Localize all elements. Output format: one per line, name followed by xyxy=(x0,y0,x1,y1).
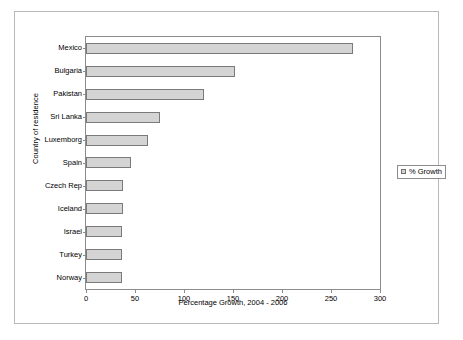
y-axis-tick-label: Sri Lanka xyxy=(50,113,82,121)
bar xyxy=(86,135,148,146)
chart-legend: % Growth xyxy=(397,165,446,179)
y-axis-tick-label: Mexico xyxy=(58,44,82,52)
plot-area: MexicoBulgariaPakistanSri LankaLuxemborg… xyxy=(85,36,381,290)
x-axis-tick xyxy=(282,289,283,293)
y-axis-tick xyxy=(83,140,86,141)
y-axis-tick-label: Iceland xyxy=(58,205,82,213)
x-axis-tick xyxy=(135,289,136,293)
y-axis-tick xyxy=(83,71,86,72)
y-axis-tick-label: Turkey xyxy=(59,251,82,259)
bar-row: Iceland xyxy=(86,197,380,220)
x-axis-tick xyxy=(86,289,87,293)
bar xyxy=(86,249,122,260)
y-axis-tick-label: Spain xyxy=(63,159,82,167)
bar-row: Bulgaria xyxy=(86,60,380,83)
bar-row: Czech Rep xyxy=(86,174,380,197)
bar xyxy=(86,272,122,283)
y-axis-tick xyxy=(83,186,86,187)
legend-swatch-growth xyxy=(401,169,406,174)
y-axis-tick-label: Luxemborg xyxy=(44,136,82,144)
y-axis-tick-label: Israel xyxy=(64,228,82,236)
bar-row: Spain xyxy=(86,152,380,175)
bar xyxy=(86,157,131,168)
bar-row: Israel xyxy=(86,220,380,243)
bar xyxy=(86,203,123,214)
bar xyxy=(86,89,204,100)
legend-label-growth: % Growth xyxy=(409,168,442,176)
bar xyxy=(86,226,122,237)
x-axis-tick xyxy=(331,289,332,293)
y-axis-tick xyxy=(83,255,86,256)
y-axis-tick xyxy=(83,209,86,210)
y-axis-tick xyxy=(83,163,86,164)
y-axis-title: Country of residence xyxy=(31,69,40,189)
bar-row: Mexico xyxy=(86,37,380,60)
x-axis-tick xyxy=(184,289,185,293)
bar-row: Turkey xyxy=(86,243,380,266)
bar xyxy=(86,180,123,191)
bar xyxy=(86,43,353,54)
y-axis-tick-label: Czech Rep xyxy=(45,182,82,190)
y-axis-tick-label: Bulgaria xyxy=(54,67,82,75)
x-axis-tick xyxy=(380,289,381,293)
y-axis-tick xyxy=(83,48,86,49)
y-axis-tick xyxy=(83,117,86,118)
y-axis-tick xyxy=(83,232,86,233)
bar xyxy=(86,112,160,123)
bar-row: Luxemborg xyxy=(86,129,380,152)
bar xyxy=(86,66,235,77)
bar-row: Pakistan xyxy=(86,83,380,106)
y-axis-tick-label: Norway xyxy=(57,274,82,282)
bar-row: Sri Lanka xyxy=(86,106,380,129)
y-axis-tick xyxy=(83,278,86,279)
bar-row: Norway xyxy=(86,266,380,289)
chart-frame: Country of residence MexicoBulgariaPakis… xyxy=(14,11,439,324)
y-axis-tick xyxy=(83,94,86,95)
x-axis-tick xyxy=(233,289,234,293)
x-axis-title: Percentage Growth, 2004 - 2006 xyxy=(85,298,381,307)
y-axis-tick-label: Pakistan xyxy=(53,90,82,98)
